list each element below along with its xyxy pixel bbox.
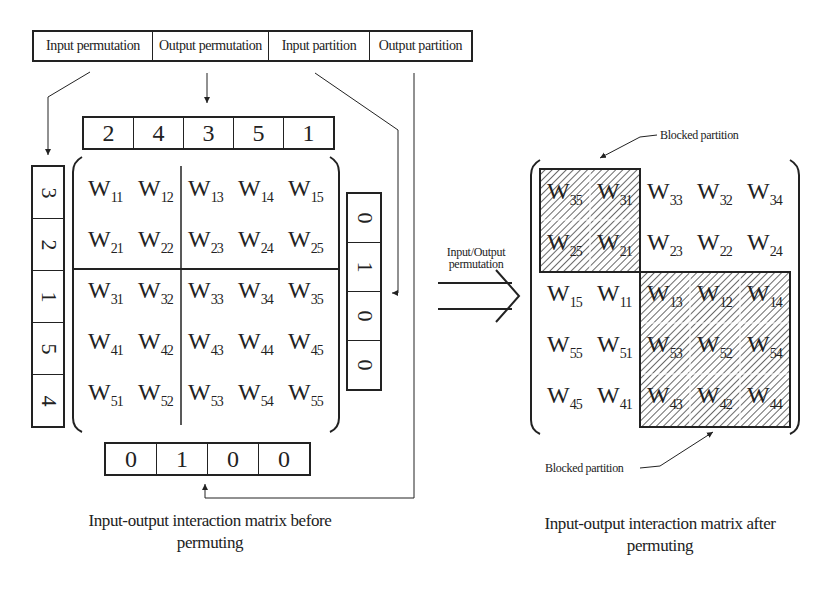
entry-subscript: 53 (670, 346, 682, 361)
entry-subscript: 25 (311, 241, 323, 256)
matrix-after-entry: W35 (547, 178, 582, 209)
entry-base: W (88, 226, 111, 252)
entry-base: W (188, 328, 211, 354)
matrix-after-entry: W42 (697, 382, 732, 413)
entry-base: W (647, 178, 670, 204)
matrix-before-entry: W41 (88, 328, 123, 359)
entry-subscript: 35 (311, 292, 323, 307)
entry-base: W (88, 379, 111, 405)
entry-base: W (138, 328, 161, 354)
matrix-before-entry: W52 (138, 379, 173, 410)
entry-subscript: 13 (670, 295, 682, 310)
blocked-partition-label-top: Blocked partition (660, 128, 739, 143)
blocked-partition-label-bottom: Blocked partition (545, 461, 624, 476)
entry-subscript: 22 (720, 244, 732, 259)
entry-base: W (238, 226, 261, 252)
arrow-label: Input/Output permutation (440, 246, 512, 270)
entry-base: W (188, 175, 211, 201)
entry-subscript: 45 (570, 397, 582, 412)
matrix-before-entry: W11 (88, 175, 122, 206)
entry-base: W (238, 277, 261, 303)
entry-base: W (597, 382, 620, 408)
entry-subscript: 21 (111, 241, 123, 256)
matrix-after-entry: W13 (647, 280, 682, 311)
matrix-before-entry: W54 (238, 379, 273, 410)
matrix-before-entry: W34 (238, 277, 273, 308)
caption-after-line2: permuting (500, 535, 820, 557)
matrix-after-entry: W45 (547, 382, 582, 413)
entry-subscript: 24 (261, 241, 273, 256)
matrix-before-entry: W25 (288, 226, 323, 257)
entry-subscript: 31 (620, 193, 632, 208)
entry-subscript: 33 (211, 292, 223, 307)
entry-base: W (747, 229, 770, 255)
entry-base: W (188, 226, 211, 252)
entry-base: W (647, 382, 670, 408)
entry-base: W (647, 229, 670, 255)
matrix-before-entry: W35 (288, 277, 323, 308)
entry-subscript: 54 (261, 394, 273, 409)
entry-subscript: 14 (770, 295, 782, 310)
matrix-after-entry: W55 (547, 331, 582, 362)
entry-subscript: 42 (720, 397, 732, 412)
matrix-before-entry: W15 (288, 175, 323, 206)
entry-base: W (747, 280, 770, 306)
entry-base: W (188, 277, 211, 303)
entry-subscript: 22 (161, 241, 173, 256)
entry-base: W (547, 382, 570, 408)
entry-subscript: 54 (770, 346, 782, 361)
entry-subscript: 14 (261, 190, 273, 205)
matrix-after-entry: W24 (747, 229, 782, 260)
entry-subscript: 23 (670, 244, 682, 259)
matrix-after-entry: W33 (647, 178, 682, 209)
entry-base: W (697, 280, 720, 306)
matrix-before-entry: W53 (188, 379, 223, 410)
matrix-before-entry: W31 (88, 277, 123, 308)
matrix-before-entry: W51 (88, 379, 123, 410)
matrix-after-entry: W15 (547, 280, 582, 311)
entry-subscript: 52 (161, 394, 173, 409)
entry-subscript: 55 (570, 346, 582, 361)
entry-base: W (547, 331, 570, 357)
caption-after-line1: Input-output interaction matrix after (500, 513, 820, 535)
matrix-after-entry: W12 (697, 280, 732, 311)
matrix-before-entry: W14 (238, 175, 273, 206)
matrix-after-entry: W21 (597, 229, 632, 260)
matrix-after-entry: W34 (747, 178, 782, 209)
matrix-after-entry: W41 (597, 382, 632, 413)
entry-base: W (597, 331, 620, 357)
entry-base: W (547, 229, 570, 255)
matrix-before-entry: W44 (238, 328, 273, 359)
matrix-after-entry: W22 (697, 229, 732, 260)
entry-subscript: 43 (670, 397, 682, 412)
entry-base: W (547, 178, 570, 204)
entry-subscript: 42 (161, 343, 173, 358)
matrix-before-entry: W22 (138, 226, 173, 257)
matrix-before-entry: W21 (88, 226, 123, 257)
entry-base: W (138, 226, 161, 252)
entry-subscript: 15 (570, 295, 582, 310)
entry-base: W (697, 331, 720, 357)
entry-base: W (697, 229, 720, 255)
entry-subscript: 34 (261, 292, 273, 307)
matrix-before-entry: W42 (138, 328, 173, 359)
entry-subscript: 11 (111, 190, 122, 205)
matrix-after-entry: W31 (597, 178, 632, 209)
entry-base: W (597, 280, 620, 306)
entry-base: W (747, 331, 770, 357)
matrix-before-entry: W33 (188, 277, 223, 308)
caption-before: Input-output interaction matrix before p… (40, 510, 380, 554)
entry-subscript: 12 (161, 190, 173, 205)
matrix-after-entry: W32 (697, 178, 732, 209)
entry-subscript: 25 (570, 244, 582, 259)
entry-base: W (697, 382, 720, 408)
entry-base: W (288, 328, 311, 354)
entry-subscript: 34 (770, 193, 782, 208)
entry-subscript: 52 (720, 346, 732, 361)
matrix-after-entry: W11 (597, 280, 631, 311)
entry-subscript: 21 (620, 244, 632, 259)
entry-base: W (238, 175, 261, 201)
entry-subscript: 43 (211, 343, 223, 358)
arrow-label-line2: permutation (440, 258, 512, 270)
entry-base: W (188, 379, 211, 405)
